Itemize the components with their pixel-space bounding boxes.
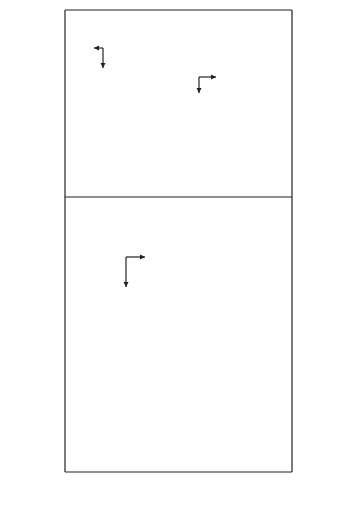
bottom-panel [65, 197, 292, 472]
chart-svg [0, 0, 350, 522]
top-circle-arrow-icon [94, 46, 106, 69]
top-triangle-arrow-icon [197, 75, 217, 94]
top-panel [65, 10, 292, 197]
glucose-arrow-icon [124, 255, 146, 288]
fermentation-chart [0, 0, 350, 522]
